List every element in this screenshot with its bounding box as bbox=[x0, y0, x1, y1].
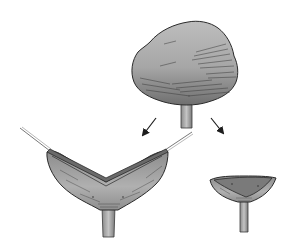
v-cup-speck bbox=[122, 196, 124, 198]
arrow-right bbox=[211, 118, 223, 133]
right-filament-2 bbox=[166, 134, 193, 152]
small-cup-speck bbox=[231, 183, 232, 184]
v-cup-stem bbox=[102, 206, 115, 237]
illustration-canvas bbox=[0, 0, 294, 252]
small-cup-stem bbox=[240, 200, 248, 232]
v-cup-speck bbox=[92, 196, 94, 198]
illustration bbox=[0, 0, 294, 252]
cap-body bbox=[132, 21, 238, 105]
right-filament bbox=[165, 132, 192, 150]
left-filament-2 bbox=[22, 127, 51, 149]
v-shaped-cup bbox=[20, 127, 193, 237]
small-cup bbox=[210, 176, 276, 232]
arrow-left bbox=[143, 118, 156, 135]
small-cup-speck bbox=[257, 185, 258, 186]
rounded-cap bbox=[132, 21, 238, 128]
left-filament bbox=[20, 128, 50, 151]
